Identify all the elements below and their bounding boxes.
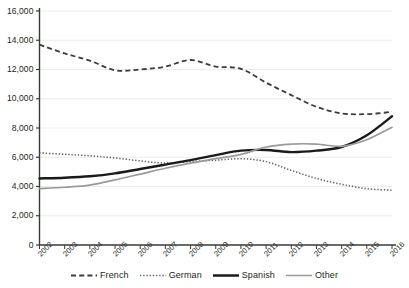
legend-swatch-other xyxy=(286,271,312,280)
series-line-french xyxy=(40,45,393,115)
legend-label: Spanish xyxy=(242,270,275,280)
legend-item-spanish[interactable]: Spanish xyxy=(213,270,275,280)
legend-swatch-french xyxy=(71,271,97,280)
axis-lines xyxy=(40,8,397,245)
legend-swatch-german xyxy=(140,271,166,280)
chart-legend: FrenchGermanSpanishOther xyxy=(0,270,409,280)
legend-item-other[interactable]: Other xyxy=(286,270,338,280)
legend-swatch-spanish xyxy=(213,271,239,280)
legend-item-german[interactable]: German xyxy=(140,270,202,280)
series-line-other xyxy=(40,127,393,188)
legend-label: Other xyxy=(315,270,338,280)
line-chart: 02,0004,0006,0008,00010,00012,00014,0001… xyxy=(0,0,409,288)
chart-plot-area xyxy=(0,0,409,288)
legend-item-french[interactable]: French xyxy=(71,270,129,280)
data-series-layer xyxy=(40,45,393,191)
legend-label: German xyxy=(169,270,202,280)
series-line-spanish xyxy=(40,116,393,178)
legend-label: French xyxy=(100,270,129,280)
